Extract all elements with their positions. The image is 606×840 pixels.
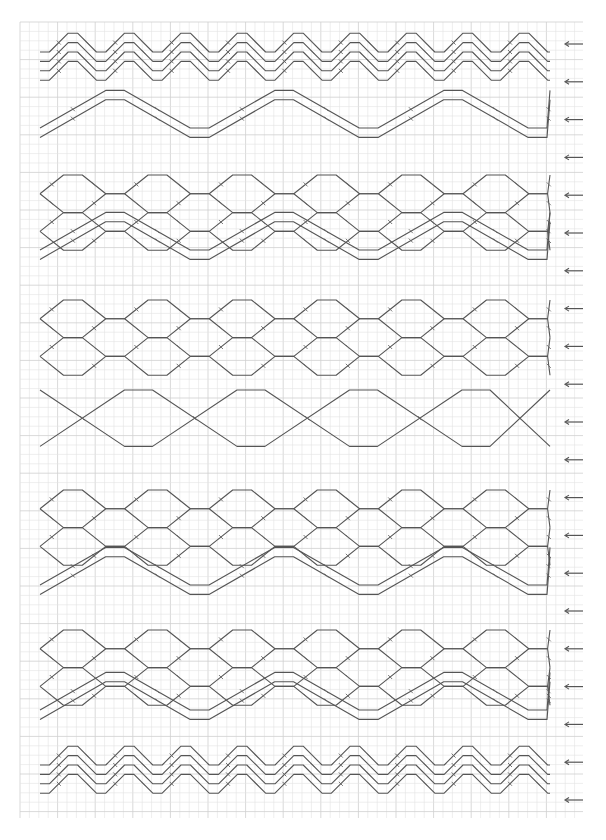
- thread-tick: [304, 656, 308, 660]
- thread-tick: [304, 694, 308, 698]
- thread-diamond-lattice-3: [40, 490, 550, 509]
- thread-tick: [324, 117, 328, 121]
- thread-tick: [304, 201, 308, 205]
- thread-tick: [219, 656, 223, 660]
- thread-diamond-lattice-2: [40, 300, 550, 319]
- thread-diamond-lattice-2: [40, 338, 550, 357]
- thread-tick: [134, 656, 138, 660]
- thread-tick: [493, 689, 497, 693]
- thread-tick: [155, 574, 159, 578]
- thread-top-zigzag: [40, 61, 550, 80]
- thread-tick: [304, 326, 308, 330]
- thread-tick: [473, 201, 477, 205]
- thread-tick: [473, 239, 477, 243]
- thread-wide-wave-3: [40, 547, 550, 585]
- thread-tick: [155, 229, 159, 233]
- thread-wide-wave-3: [40, 557, 550, 595]
- thread-diamond-lattice-3: [40, 546, 550, 565]
- thread-tick: [219, 516, 223, 520]
- thread-tick: [134, 326, 138, 330]
- thread-tick: [219, 201, 223, 205]
- thread-tick: [219, 364, 223, 368]
- thread-tick: [50, 554, 54, 558]
- thread-tick: [388, 656, 392, 660]
- thread-wide-wave-1: [40, 90, 550, 128]
- thread-wide-wave-2: [40, 222, 550, 260]
- thread-tick: [50, 694, 54, 698]
- thread-tick: [155, 689, 159, 693]
- thread-tick: [473, 516, 477, 520]
- thread-tick: [50, 201, 54, 205]
- thread-bottom-zigzag: [40, 774, 550, 793]
- thread-tick: [324, 229, 328, 233]
- thread-tick: [324, 574, 328, 578]
- turn-arrows: [565, 42, 583, 803]
- thread-large-diamond: [40, 390, 550, 446]
- thread-tick: [388, 201, 392, 205]
- thread-tick: [324, 689, 328, 693]
- thread-tick: [388, 326, 392, 330]
- thread-diamond-lattice-2: [40, 356, 550, 375]
- thread-tick: [493, 229, 497, 233]
- thread-tick: [155, 117, 159, 121]
- graph-paper-grid: [20, 22, 583, 818]
- thread-tick: [304, 364, 308, 368]
- thread-tick: [134, 364, 138, 368]
- thread-tick: [134, 694, 138, 698]
- thread-tick: [388, 364, 392, 368]
- thread-large-diamond: [40, 390, 550, 446]
- thread-tick: [473, 326, 477, 330]
- thread-tick: [155, 239, 159, 243]
- threading-diagram: [0, 0, 606, 840]
- thread-tick: [388, 694, 392, 698]
- thread-tick: [473, 694, 477, 698]
- thread-tick: [219, 326, 223, 330]
- thread-tick: [304, 516, 308, 520]
- thread-tick: [219, 694, 223, 698]
- thread-tick: [493, 239, 497, 243]
- thread-tick: [324, 239, 328, 243]
- thread-tick: [473, 656, 477, 660]
- thread-tick: [493, 574, 497, 578]
- thread-tick: [493, 117, 497, 121]
- thread-tick: [50, 326, 54, 330]
- thread-tick: [473, 364, 477, 368]
- thread-diamond-lattice-2: [40, 319, 550, 338]
- thread-tick: [219, 554, 223, 558]
- thread-tick: [388, 516, 392, 520]
- thread-tick: [134, 201, 138, 205]
- thread-tick: [134, 239, 138, 243]
- thread-tick: [50, 656, 54, 660]
- thread-tick: [155, 107, 159, 111]
- thread-tick: [324, 107, 328, 111]
- thread-wide-wave-1: [40, 100, 550, 138]
- thread-diamond-lattice-3: [40, 509, 550, 528]
- thread-tick: [134, 516, 138, 520]
- thread-tick: [493, 107, 497, 111]
- thread-diamond-lattice-3: [40, 528, 550, 547]
- thread-tick: [388, 554, 392, 558]
- thread-tick: [304, 239, 308, 243]
- thread-tick: [50, 516, 54, 520]
- thread-paths: [40, 33, 551, 793]
- thread-tick: [50, 364, 54, 368]
